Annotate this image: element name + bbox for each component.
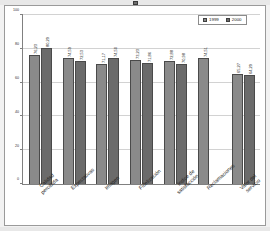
bar-1999-4[interactable]: 72,88 [164,61,175,184]
bar-value-label: 72,53 [80,50,84,60]
bar-value-label: 76,23 [34,44,38,54]
bar-group: 74,51 [198,15,220,184]
bar-1999-3[interactable]: 73,23 [130,60,141,184]
legend-label-1999: 1999 [209,18,219,22]
legend-swatch-1999-icon [203,18,207,22]
bar-value-label: 70,98 [182,53,186,63]
bar-2000-1[interactable]: 72,53 [75,61,86,184]
bar-value-label: 73,23 [136,49,140,59]
bar-1999-0[interactable]: 76,23 [29,55,40,184]
bar-group: 76,2380,29 [29,15,51,184]
bar-1999-1[interactable]: 74,59 [63,58,74,184]
bar-value-label: 71,17 [102,53,106,63]
legend-item-2000[interactable]: 2000 [226,18,242,22]
bar-2000-3[interactable]: 71,86 [142,63,153,184]
bar-2000-0[interactable]: 80,29 [41,48,52,184]
y-tick-label: 100 [13,10,19,14]
legend-item-1999[interactable]: 1999 [203,18,219,22]
bar-value-label: 65,27 [237,63,241,73]
bar-group: 74,5972,53 [63,15,85,184]
legend-label-2000: 2000 [232,18,242,22]
chart-object[interactable]: 020406080100 76,2380,2974,5972,5371,1774… [4,5,266,226]
bar-group: 71,1774,50 [96,15,118,184]
bar-value-label: 72,88 [170,50,174,60]
bar-1999-5[interactable]: 74,51 [198,58,209,184]
bar-2000-4[interactable]: 70,98 [176,64,187,184]
bar-value-label: 71,86 [148,52,152,62]
legend-swatch-2000-icon [226,18,230,22]
y-tick-label: 80 [15,43,19,47]
bar-value-label: 74,51 [204,47,208,57]
y-tick-label: 20 [15,145,19,149]
y-tick-label: 60 [15,77,19,81]
y-tick-label: 40 [15,111,19,115]
bar-value-label: 64,29 [249,64,253,74]
bars-group: 76,2380,2974,5972,5371,1774,5073,2371,86… [23,15,260,184]
bar-1999-2[interactable]: 71,17 [96,64,107,184]
bar-2000-2[interactable]: 74,50 [108,58,119,184]
bar-group: 72,8870,98 [164,15,186,184]
y-tick-label: 0 [17,179,19,183]
bar-group: 73,2371,86 [130,15,152,184]
bar-2000-6[interactable]: 64,29 [244,75,255,184]
plot-area: 020406080100 76,2380,2974,5972,5371,1774… [22,15,260,185]
bar-value-label: 74,59 [68,47,72,57]
chart-legend[interactable]: 1999 2000 [198,15,247,25]
x-axis-category-labels: CalidadpercibidaExpectativasImagenFideli… [22,187,260,231]
bar-value-label: 74,50 [114,47,118,57]
screenshot-root: 020406080100 76,2380,2974,5972,5371,1774… [0,0,270,231]
bar-group: 65,2764,29 [232,15,254,184]
bar-value-label: 80,29 [46,37,50,47]
